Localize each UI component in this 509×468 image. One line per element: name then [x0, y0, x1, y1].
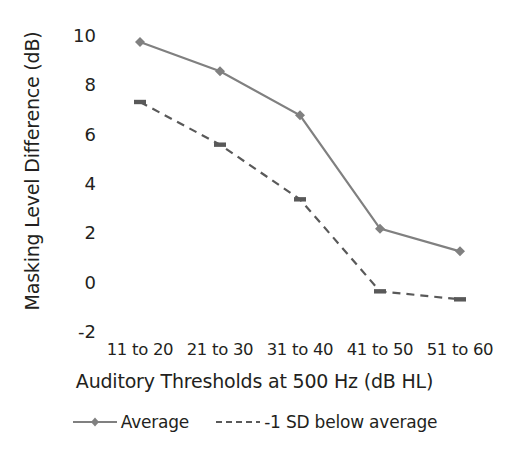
y-tick-label: 8	[66, 76, 96, 94]
data-point-marker	[294, 197, 306, 201]
y-tick-label: -2	[66, 323, 96, 341]
y-axis-title: Masking Level Difference (dB)	[21, 21, 43, 321]
y-tick-label: 0	[66, 274, 96, 292]
data-point-marker	[135, 37, 145, 47]
data-point-marker	[215, 66, 225, 76]
data-point-marker	[134, 100, 146, 104]
series-line-1	[140, 42, 460, 251]
y-tick-label: 4	[66, 175, 96, 193]
legend-solid-line-icon	[72, 415, 118, 429]
data-point-marker	[454, 297, 466, 301]
data-point-marker	[214, 142, 226, 146]
legend-dashed-line-icon	[215, 415, 261, 429]
x-tick-label: 11 to 20	[100, 340, 180, 366]
plot-area: 10 8 6 4 2 0 -2	[100, 22, 500, 342]
chart-figure: Masking Level Difference (dB) 10 8 6 4 2…	[0, 0, 509, 468]
legend-label: -1 SD below average	[264, 412, 437, 432]
x-tick-label: 41 to 50	[340, 340, 420, 366]
legend-item-average: Average	[72, 412, 189, 432]
data-point-marker	[455, 246, 465, 256]
legend-item-sd: -1 SD below average	[215, 412, 437, 432]
data-point-marker	[374, 289, 386, 293]
chart-legend: Average -1 SD below average	[0, 412, 509, 432]
legend-label: Average	[121, 412, 189, 432]
x-axis-tick-labels: 11 to 20 21 to 30 31 to 40 41 to 50 51 t…	[100, 340, 500, 366]
x-tick-label: 31 to 40	[260, 340, 340, 366]
x-axis-title: Auditory Thresholds at 500 Hz (dB HL)	[0, 370, 509, 392]
x-tick-label: 21 to 30	[180, 340, 260, 366]
y-tick-label: 6	[66, 126, 96, 144]
y-tick-label: 2	[66, 224, 96, 242]
y-tick-label: 10	[66, 27, 96, 45]
x-tick-label: 51 to 60	[420, 340, 500, 366]
series-plot	[100, 22, 500, 342]
